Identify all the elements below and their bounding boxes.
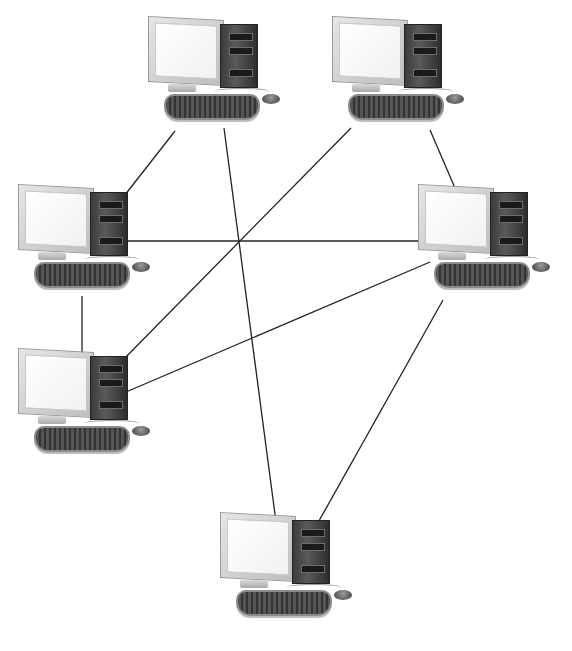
screen — [425, 190, 487, 247]
keyboard-icon — [34, 426, 130, 452]
mouse-icon — [334, 590, 352, 600]
tower-icon — [292, 520, 330, 584]
tower-icon — [490, 192, 528, 256]
tower-icon — [90, 356, 128, 420]
mouse-icon — [532, 262, 550, 272]
link-pc2-pc4 — [121, 128, 351, 362]
monitor-icon — [418, 184, 494, 254]
tower-icon — [90, 192, 128, 256]
keyboard-icon — [34, 262, 130, 288]
screen — [339, 22, 401, 79]
computer-node-3 — [18, 186, 148, 301]
monitor-icon — [18, 348, 94, 418]
link-pc5-pc4 — [126, 262, 430, 392]
screen — [25, 190, 87, 247]
tower-icon — [404, 24, 442, 88]
computer-node-5 — [418, 186, 548, 301]
monitor-stand — [352, 84, 380, 92]
monitor-icon — [220, 512, 296, 582]
monitor-stand — [240, 580, 268, 588]
mouse-icon — [132, 426, 150, 436]
computer-node-6 — [220, 514, 350, 629]
keyboard-icon — [164, 94, 260, 120]
monitor-icon — [332, 16, 408, 86]
monitor-icon — [18, 184, 94, 254]
keyboard-icon — [348, 94, 444, 120]
monitor-stand — [38, 416, 66, 424]
monitor-stand — [168, 84, 196, 92]
keyboard-icon — [434, 262, 530, 288]
computer-node-4 — [18, 350, 148, 465]
mouse-icon — [446, 94, 464, 104]
screen — [227, 518, 289, 575]
screen — [25, 354, 87, 411]
computer-node-1 — [148, 18, 278, 133]
screen — [155, 22, 217, 79]
link-pc5-pc6 — [315, 300, 443, 528]
monitor-stand — [438, 252, 466, 260]
keyboard-icon — [236, 590, 332, 616]
link-pc1-pc6 — [224, 128, 276, 522]
monitor-stand — [38, 252, 66, 260]
monitor-icon — [148, 16, 224, 86]
mouse-icon — [132, 262, 150, 272]
figure-caption — [18, 642, 558, 651]
tower-icon — [220, 24, 258, 88]
mouse-icon — [262, 94, 280, 104]
computer-node-2 — [332, 18, 462, 133]
